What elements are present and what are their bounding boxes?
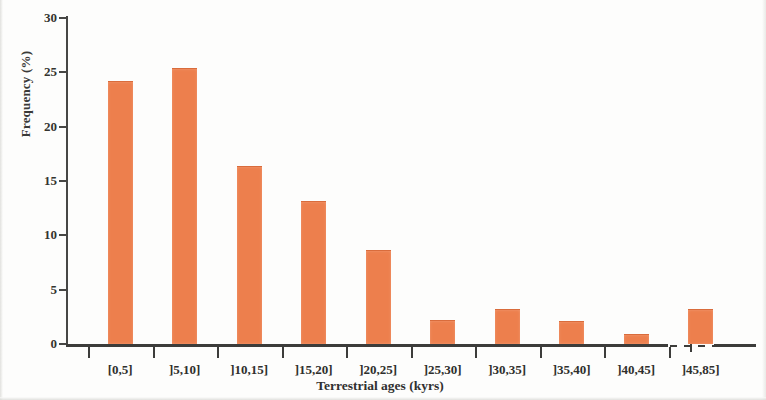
- y-axis-title: Frequency (%): [18, 4, 34, 184]
- x-tick-label: ]40,45]: [617, 362, 655, 378]
- y-tick-label: 10: [44, 227, 57, 243]
- x-tick-mark: [88, 347, 90, 358]
- x-tick-label: ]45,85]: [682, 362, 720, 378]
- bar: [430, 320, 455, 344]
- bar: [495, 309, 520, 344]
- x-tick-label: ]15,20]: [295, 362, 333, 378]
- y-tick-label: 20: [44, 119, 57, 135]
- x-tick-label: [0,5]: [108, 362, 133, 378]
- x-tick-mark: [540, 347, 542, 358]
- x-tick-mark: [669, 347, 671, 358]
- y-tick-mark: [59, 289, 66, 291]
- y-tick-mark: [59, 17, 66, 19]
- y-tick-label: 0: [51, 336, 58, 352]
- x-axis-line: [66, 344, 668, 347]
- x-axis-title: Terrestrial ages (kyrs): [150, 378, 610, 394]
- axis-break-dashes: [670, 345, 714, 347]
- y-tick-mark: [59, 180, 66, 182]
- x-tick-mark: [282, 347, 284, 358]
- x-tick-label: ]20,25]: [359, 362, 397, 378]
- histogram-figure: Frequency (%) 051015202530 [0,5]]5,10]]1…: [0, 0, 766, 400]
- scan-edge-left: [0, 0, 3, 400]
- y-tick-label: 25: [44, 64, 57, 80]
- bar: [172, 68, 197, 344]
- x-tick-label: ]10,15]: [230, 362, 268, 378]
- bar: [108, 81, 133, 344]
- y-tick-mark: [59, 343, 66, 345]
- bar: [688, 309, 713, 344]
- x-tick-mark: [475, 347, 477, 358]
- bar: [366, 250, 391, 344]
- x-axis-line-after-break: [714, 344, 756, 347]
- x-tick-mark: [153, 347, 155, 358]
- bar: [237, 166, 262, 344]
- y-tick-mark: [59, 234, 66, 236]
- x-tick-label: ]30,35]: [488, 362, 526, 378]
- y-tick-mark: [59, 71, 66, 73]
- y-axis-line: [66, 16, 68, 346]
- bar: [301, 201, 326, 344]
- y-tick-label: 30: [44, 10, 57, 26]
- y-tick-mark: [59, 126, 66, 128]
- x-tick-mark: [604, 347, 606, 358]
- bar: [559, 321, 584, 344]
- x-tick-label: ]5,10]: [169, 362, 200, 378]
- x-tick-mark: [217, 347, 219, 358]
- y-tick-label: 5: [51, 282, 58, 298]
- x-tick-label: ]25,30]: [424, 362, 462, 378]
- bar: [624, 334, 649, 344]
- x-tick-mark: [346, 347, 348, 358]
- x-tick-mark: [411, 347, 413, 358]
- scan-edge-right: [762, 0, 766, 400]
- x-tick-label: ]35,40]: [553, 362, 591, 378]
- y-tick-label: 15: [44, 173, 57, 189]
- plot-area: 051015202530 [0,5]]5,10]]10,15]]15,20]]2…: [66, 16, 756, 346]
